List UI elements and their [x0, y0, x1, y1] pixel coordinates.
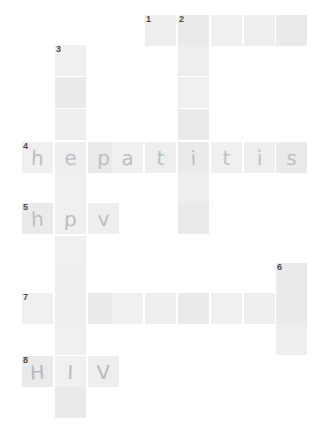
crossword-cell-r11c1[interactable]: I — [55, 356, 86, 387]
crossword-cell-r0c5[interactable]: 2 — [178, 15, 209, 46]
crossword-cell-r12c1[interactable] — [55, 387, 86, 418]
crossword-cell-r10c1[interactable] — [55, 324, 86, 355]
crossword-cell-r4c0[interactable]: 4h — [22, 142, 53, 173]
cell-letter-r11c1: I — [54, 355, 86, 387]
crossword-cell-r11c0[interactable]: 8H — [22, 356, 53, 387]
cell-letter-r4c8: s — [275, 141, 308, 174]
clue-number-1: 1 — [146, 14, 151, 24]
cell-letter-r4c6: t — [210, 141, 242, 173]
crossword-cell-r9c7[interactable] — [244, 293, 275, 324]
crossword-cell-r3c1[interactable] — [55, 109, 86, 140]
crossword-cell-r4c3[interactable]: a — [112, 142, 143, 173]
crossword-cell-r9c0[interactable]: 7 — [22, 293, 53, 324]
crossword-cell-r6c1[interactable]: p — [55, 203, 86, 234]
clue-number-7: 7 — [23, 292, 28, 302]
clue-number-6: 6 — [277, 262, 282, 272]
cell-letter-r6c0: h — [22, 203, 54, 235]
crossword-cell-r8c1[interactable] — [55, 263, 86, 294]
cell-letter-r6c2: v — [87, 202, 120, 235]
crossword-cell-r9c5[interactable] — [178, 293, 209, 324]
crossword-cell-r9c4[interactable] — [145, 293, 176, 324]
crossword-cell-r0c4[interactable]: 1 — [145, 15, 176, 46]
crossword-cell-r9c1[interactable] — [55, 293, 86, 324]
crossword-cell-r1c1[interactable]: 3 — [55, 45, 86, 76]
crossword-cell-r10c8[interactable] — [276, 324, 307, 355]
crossword-cell-r4c8[interactable]: s — [276, 142, 307, 173]
crossword-cell-r4c5[interactable]: i — [178, 142, 209, 173]
cell-letter-r11c0: H — [21, 355, 54, 388]
crossword-cell-r0c7[interactable] — [244, 15, 275, 46]
crossword-cell-r9c6[interactable] — [211, 293, 242, 324]
cell-letter-r4c7: i — [244, 142, 276, 174]
cell-letter-r4c0: h — [21, 141, 54, 174]
crossword-cell-r8c8[interactable]: 6 — [276, 263, 307, 294]
crossword-cell-r0c8[interactable] — [276, 15, 307, 46]
crossword-cell-r4c7[interactable]: i — [244, 142, 275, 173]
crossword-cell-r5c1[interactable] — [55, 172, 86, 203]
crossword-cell-r1c5[interactable] — [178, 45, 209, 76]
cell-letter-r6c1: p — [54, 202, 87, 235]
crossword-cell-r4c4[interactable]: t — [145, 142, 176, 173]
cell-letter-r4c5: i — [177, 141, 210, 174]
crossword-grid: 1234hepatitis5hpv678HIV — [0, 0, 318, 425]
crossword-cell-r4c1[interactable]: e — [55, 142, 86, 173]
crossword-cell-r6c5[interactable] — [178, 203, 209, 234]
crossword-cell-r0c6[interactable] — [211, 15, 242, 46]
cell-letter-r4c1: e — [54, 141, 87, 174]
cell-letter-r11c2: V — [88, 356, 120, 388]
crossword-cell-r3c5[interactable] — [178, 109, 209, 140]
crossword-cell-r2c1[interactable] — [55, 77, 86, 108]
clue-number-3: 3 — [56, 44, 61, 54]
crossword-cell-r9c3[interactable] — [112, 293, 143, 324]
crossword-cell-r2c5[interactable] — [178, 77, 209, 108]
crossword-cell-r9c8[interactable] — [276, 293, 307, 324]
crossword-cell-r4c6[interactable]: t — [211, 142, 242, 173]
clue-number-2: 2 — [179, 14, 184, 24]
crossword-cell-r6c0[interactable]: 5h — [22, 203, 53, 234]
cell-letter-r4c4: t — [144, 141, 177, 174]
crossword-cell-r5c5[interactable] — [178, 172, 209, 203]
crossword-cell-r6c2[interactable]: v — [88, 203, 119, 234]
crossword-cell-r11c2[interactable]: V — [88, 356, 119, 387]
cell-letter-r4c3: a — [112, 142, 144, 174]
